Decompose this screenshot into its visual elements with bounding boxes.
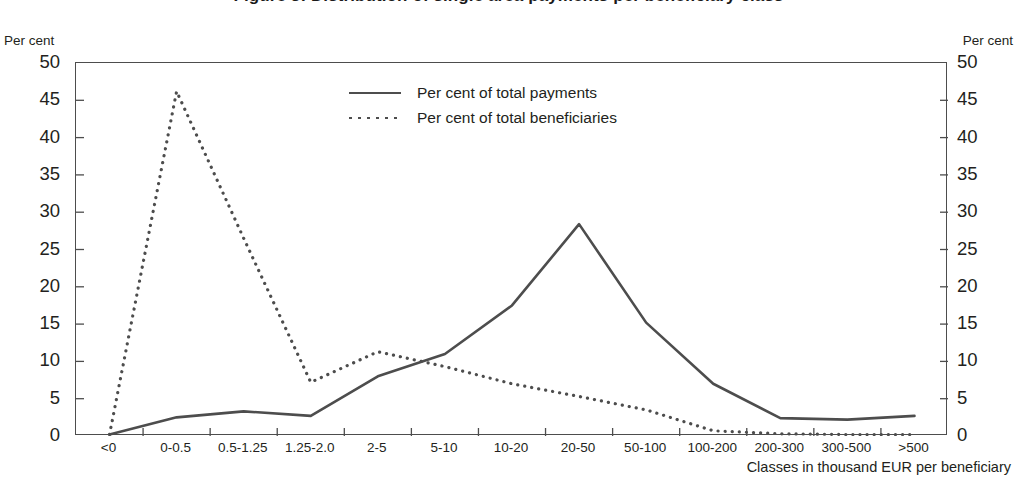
y-tick-label-left: 25: [39, 239, 60, 258]
x-tick-label: 100-200: [687, 441, 737, 455]
y-axis-caption-left: Per cent: [4, 33, 54, 48]
x-tick-label: 5-10: [430, 441, 457, 455]
axis-tick-marks: [76, 100, 948, 436]
y-tick-label-left: 40: [39, 127, 60, 146]
x-tick-label: >500: [898, 441, 928, 455]
figure-title: Figure 3: Distribution of single area pa…: [0, 0, 1017, 6]
legend-item: Per cent of total payments: [349, 80, 679, 105]
x-tick-label: 0.5-1.25: [218, 441, 268, 455]
x-tick-label: 0-0.5: [160, 441, 191, 455]
y-tick-label-right: 45: [957, 90, 978, 109]
y-tick-label-left: 45: [39, 90, 60, 109]
y-tick-label-left: 35: [39, 165, 60, 184]
y-tick-label-right: 30: [957, 202, 978, 221]
y-tick-label-right: 40: [957, 127, 978, 146]
x-tick-label: 200-300: [755, 441, 805, 455]
y-axis-caption-right: Per cent: [963, 33, 1013, 48]
y-tick-label-right: 35: [957, 165, 978, 184]
y-tick-label-left: 5: [50, 388, 60, 407]
y-tick-label-left: 15: [39, 314, 60, 333]
legend-dotted-line-icon: [349, 112, 401, 124]
data-series-layer: [110, 91, 915, 434]
x-tick-label: 2-5: [367, 441, 387, 455]
data-series-line: [110, 224, 915, 434]
data-series-line: [110, 91, 915, 434]
legend-item-label: Per cent of total beneficiaries: [417, 109, 617, 127]
y-tick-label-left: 10: [39, 351, 60, 370]
x-tick-label: 300-500: [822, 441, 872, 455]
y-tick-label-right: 50: [957, 53, 978, 72]
x-tick-label: 20-50: [561, 441, 596, 455]
y-tick-label-right: 5: [957, 388, 967, 407]
y-tick-label-left: 30: [39, 202, 60, 221]
y-tick-label-left: 0: [50, 426, 60, 445]
legend-item: Per cent of total beneficiaries: [349, 105, 679, 130]
chart-figure: Figure 3: Distribution of single area pa…: [0, 0, 1017, 485]
legend-solid-line-icon: [349, 87, 401, 99]
y-tick-label-left: 20: [39, 277, 60, 296]
y-tick-label-right: 0: [957, 426, 967, 445]
x-axis-title: Classes in thousand EUR per beneficiary: [0, 459, 1011, 475]
x-tick-label: 50-100: [624, 441, 666, 455]
y-tick-label-right: 10: [957, 351, 978, 370]
x-tick-label: 1.25-2.0: [285, 441, 335, 455]
y-tick-label-right: 20: [957, 277, 978, 296]
legend-item-label: Per cent of total payments: [417, 84, 597, 102]
y-tick-label-right: 25: [957, 239, 978, 258]
y-tick-label-right: 15: [957, 314, 978, 333]
chart-legend: Per cent of total paymentsPer cent of to…: [349, 80, 679, 130]
x-tick-label: 10-20: [494, 441, 529, 455]
x-tick-label: <0: [101, 441, 116, 455]
y-tick-label-left: 50: [39, 53, 60, 72]
